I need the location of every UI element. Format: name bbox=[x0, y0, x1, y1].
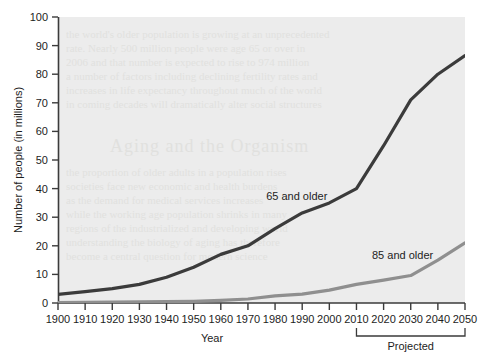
series-label-85-and-older: 85 and older bbox=[372, 249, 433, 261]
y-tick-label: 100 bbox=[30, 11, 48, 23]
x-tick-label: 2040 bbox=[426, 313, 450, 325]
svg-text:regions of the industrialized: regions of the industrialized and develo… bbox=[66, 222, 288, 234]
x-tick-label: 1990 bbox=[290, 313, 314, 325]
projected-bracket-label: Projected bbox=[387, 340, 433, 352]
svg-text:2006 and that number is expect: 2006 and that number is expected to rise… bbox=[66, 56, 310, 68]
y-tick-label: 0 bbox=[42, 297, 48, 309]
x-tick-label: 2000 bbox=[317, 313, 341, 325]
x-tick-label: 1970 bbox=[236, 313, 260, 325]
y-tick-label: 40 bbox=[36, 183, 48, 195]
svg-text:in coming decades will dramati: in coming decades will dramatically alte… bbox=[66, 98, 322, 110]
svg-text:the world's older population i: the world's older population is growing … bbox=[66, 28, 330, 40]
svg-text:Aging and the Organism: Aging and the Organism bbox=[110, 136, 309, 156]
x-tick-label: 1900 bbox=[46, 313, 70, 325]
y-tick-label: 20 bbox=[36, 240, 48, 252]
x-tick-label: 1950 bbox=[181, 313, 205, 325]
y-tick-label: 30 bbox=[36, 211, 48, 223]
svg-text:become a central question for: become a central question for modern sci… bbox=[66, 250, 268, 262]
svg-text:a number of factors including: a number of factors including declining … bbox=[66, 70, 318, 82]
x-tick-label: 1960 bbox=[209, 313, 233, 325]
series-label-65-and-older: 65 and older bbox=[266, 190, 327, 202]
x-tick-label: 1910 bbox=[73, 313, 97, 325]
x-tick-label: 1920 bbox=[100, 313, 124, 325]
svg-text:rate. Nearly 500 million peop: rate. Nearly 500 million people were age… bbox=[66, 42, 306, 54]
svg-text:increases in life expectancy t: increases in life expectancy throughout … bbox=[66, 84, 322, 96]
y-tick-label: 80 bbox=[36, 68, 48, 80]
x-axis-title: Year bbox=[201, 332, 224, 344]
x-tick-label: 2020 bbox=[371, 313, 395, 325]
y-tick-label: 50 bbox=[36, 154, 48, 166]
x-tick-label: 1980 bbox=[263, 313, 287, 325]
x-tick-label: 2010 bbox=[344, 313, 368, 325]
y-tick-label: 60 bbox=[36, 125, 48, 137]
svg-text:as the demand for medical serv: as the demand for medical services incre… bbox=[66, 194, 263, 206]
svg-text:societies face new economic an: societies face new economic and health b… bbox=[66, 180, 277, 192]
y-tick-label: 10 bbox=[36, 268, 48, 280]
chart-canvas: the world's older population is growing … bbox=[0, 0, 494, 355]
y-tick-label: 70 bbox=[36, 97, 48, 109]
x-tick-label: 2050 bbox=[453, 313, 477, 325]
x-tick-label: 2030 bbox=[398, 313, 422, 325]
chart-figure: the world's older population is growing … bbox=[0, 0, 494, 355]
x-tick-label: 1930 bbox=[127, 313, 151, 325]
y-axis-title: Number of people (in millions) bbox=[12, 87, 24, 233]
x-tick-label: 1940 bbox=[154, 313, 178, 325]
svg-text:while the working age populati: while the working age population shrinks… bbox=[66, 208, 287, 220]
svg-text:the proportion of older adults: the proportion of older adults in a popu… bbox=[66, 166, 287, 178]
y-tick-label: 90 bbox=[36, 40, 48, 52]
